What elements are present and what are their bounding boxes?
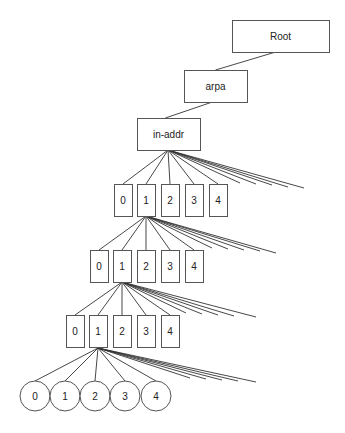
nodes: Root arpa in-addr 01234012340123401234 xyxy=(20,21,330,412)
edge-more-children xyxy=(122,282,256,317)
octet-label: 3 xyxy=(167,261,173,272)
edge-to-child xyxy=(98,282,122,315)
octet-label: 4 xyxy=(191,261,197,272)
edge-to-child xyxy=(168,150,170,184)
edge-to-child xyxy=(65,348,98,381)
octet-label: 1 xyxy=(62,391,68,402)
edge-more-children xyxy=(122,282,218,315)
level-3: 01234 xyxy=(67,316,180,348)
octet-label: 3 xyxy=(191,195,197,206)
edge-to-child xyxy=(122,216,146,250)
edge-more-children xyxy=(146,216,228,249)
edge-more-children xyxy=(122,282,234,316)
edge-more-children xyxy=(98,348,206,379)
octet-label: 4 xyxy=(167,326,173,337)
octet-label: 2 xyxy=(167,195,173,206)
octet-label: 1 xyxy=(95,326,101,337)
in-addr-label: in-addr xyxy=(153,129,185,140)
edge-to-child xyxy=(123,150,168,184)
edge-to-child xyxy=(75,282,122,315)
octet-label: 1 xyxy=(119,261,125,272)
level-2: 01234 xyxy=(91,251,204,283)
edge-to-child xyxy=(95,348,98,381)
edge-to-child xyxy=(146,216,194,250)
edge-more-children xyxy=(168,150,304,188)
edge-more-children xyxy=(168,150,240,183)
edge-to-child xyxy=(35,348,98,381)
edge-more-children xyxy=(168,150,288,187)
octet-label: 3 xyxy=(122,391,128,402)
level-1: 01234 xyxy=(115,185,228,217)
edge-more-children xyxy=(146,216,244,250)
octet-label: 2 xyxy=(119,326,125,337)
edge-root-arpa xyxy=(216,52,276,70)
dns-tree-diagram: Root arpa in-addr 01234012340123401234 xyxy=(0,0,345,433)
octet-label: 3 xyxy=(143,326,149,337)
node-arpa: arpa xyxy=(185,71,248,103)
octet-label: 4 xyxy=(215,195,221,206)
node-in-addr: in-addr xyxy=(138,119,201,151)
edge-to-child xyxy=(99,216,146,250)
octet-label: 0 xyxy=(72,326,78,337)
edge-more-children xyxy=(122,282,186,313)
edge-more-children xyxy=(98,348,190,378)
root-label: Root xyxy=(270,31,291,42)
octet-label: 0 xyxy=(32,391,38,402)
octet-label: 4 xyxy=(153,391,159,402)
octet-levels: 01234012340123401234 xyxy=(20,185,228,412)
octet-label: 0 xyxy=(96,261,102,272)
edge-to-child xyxy=(168,150,218,184)
edge-arpa-in-addr xyxy=(165,102,212,118)
octet-label: 2 xyxy=(92,391,98,402)
arpa-label: arpa xyxy=(205,81,225,92)
octet-label: 0 xyxy=(120,195,126,206)
octet-label: 2 xyxy=(143,261,149,272)
octet-label: 1 xyxy=(143,195,149,206)
edge-to-child xyxy=(146,150,168,184)
node-root: Root xyxy=(233,21,330,53)
level-4: 01234 xyxy=(20,381,171,411)
